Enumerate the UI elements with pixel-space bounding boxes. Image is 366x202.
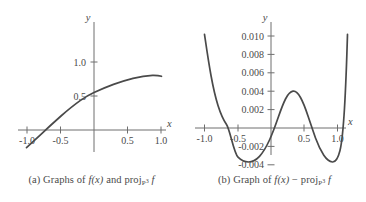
y-axis-label-a: y (85, 12, 91, 23)
x-axis-label-b: x (347, 116, 353, 127)
y-tick-label-b-2: 0.006 (242, 67, 265, 78)
y-tick-label-b-5: -0.002 (238, 141, 264, 152)
x-tick-label-a-3: 1.0 (155, 135, 168, 146)
caption-b: (b) Graph of f(x) − projP3 f (183, 174, 366, 185)
plot-area-b: -1.0 -0.5 0.5 1.0 0.010 0.008 0.006 0.00… (183, 0, 366, 172)
caption-a-tail: f (152, 174, 155, 185)
y-tick-label-b-3: 0.004 (242, 86, 265, 97)
curve-error (205, 34, 348, 162)
caption-a-subscript: P3 (142, 179, 149, 187)
x-tick-label-b-0: -1.0 (197, 133, 213, 144)
caption-a-arg: (x) (91, 174, 103, 185)
plot-svg-a: -1.0 -0.5 0.5 1.0 0.5 1.0 x y (0, 0, 183, 172)
caption-a: (a) Graphs of f(x) and projP3 f (0, 174, 183, 185)
caption-a-op: proj (124, 174, 141, 185)
plot-area-a: -1.0 -0.5 0.5 1.0 0.5 1.0 x y (0, 0, 183, 172)
caption-b-arg: (x) (277, 174, 289, 185)
caption-b-lead: Graph of (233, 174, 271, 185)
y-tick-label-b-4: 0.002 (242, 104, 265, 115)
y-tick-label-b-0: 0.010 (242, 31, 265, 42)
caption-b-prefix: (b) (218, 174, 231, 185)
caption-b-op: proj (301, 174, 318, 185)
x-axis-label-a: x (166, 118, 172, 129)
x-tick-label-a-1: -0.5 (53, 135, 69, 146)
caption-a-lead: Graphs of (43, 174, 86, 185)
caption-a-conj: and (106, 174, 121, 185)
y-axis-label-b: y (262, 12, 268, 23)
panel-b: -1.0 -0.5 0.5 1.0 0.010 0.008 0.006 0.00… (183, 0, 366, 202)
y-tick-label-a-0: 0.5 (74, 91, 87, 102)
x-tick-label-b-2: 0.5 (298, 133, 311, 144)
x-tick-label-a-2: 0.5 (121, 135, 134, 146)
y-tick-label-a-1: 1.0 (74, 57, 87, 68)
panel-a: -1.0 -0.5 0.5 1.0 0.5 1.0 x y (a) Graphs… (0, 0, 183, 202)
plot-svg-b: -1.0 -0.5 0.5 1.0 0.010 0.008 0.006 0.00… (183, 0, 366, 172)
caption-b-sub-degree: 3 (322, 178, 325, 184)
caption-b-conj: − (292, 174, 298, 185)
caption-a-sub-degree: 3 (146, 178, 149, 184)
figure-container: -1.0 -0.5 0.5 1.0 0.5 1.0 x y (a) Graphs… (0, 0, 366, 202)
caption-a-prefix: (a) (28, 174, 40, 185)
y-tick-label-b-1: 0.008 (242, 49, 265, 60)
caption-b-subscript: P3 (318, 179, 325, 187)
x-tick-label-a-0: -1.0 (19, 135, 35, 146)
caption-b-tail: f (328, 174, 331, 185)
